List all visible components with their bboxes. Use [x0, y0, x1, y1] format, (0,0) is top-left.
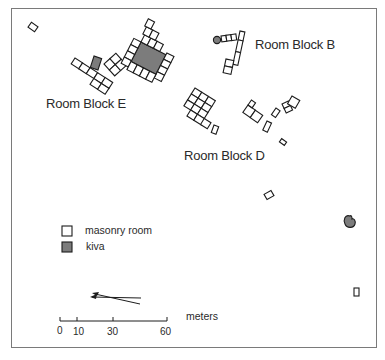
- north-arrow: [90, 292, 141, 304]
- isolated-room-se1: [264, 190, 274, 199]
- scale-tick-60: 60: [160, 326, 171, 337]
- kiva-small: [90, 56, 101, 70]
- scale-tick-10: 10: [73, 326, 84, 337]
- legend-swatch-kiva: [62, 242, 72, 252]
- label-room-block-e: Room Block E: [46, 96, 126, 111]
- legend: [62, 226, 72, 252]
- isolated-kiva-e: [344, 216, 355, 228]
- legend-label-kiva: kiva: [86, 240, 105, 252]
- legend-swatch-masonry-room: [62, 226, 72, 236]
- scale-unit-label: meters: [186, 310, 218, 322]
- scale-tick-0: 0: [57, 325, 63, 336]
- legend-label-masonry-room: masonry room: [85, 224, 152, 236]
- room-block-d: [180, 88, 300, 145]
- label-room-block-d: Room Block D: [184, 148, 265, 163]
- site-map: [0, 0, 385, 360]
- room-block-e: [67, 17, 184, 94]
- kiva-round-b: [213, 36, 220, 43]
- room-block-b: [213, 31, 244, 74]
- label-room-block-b: Room Block B: [255, 37, 335, 52]
- isolated-room-se2: [354, 288, 359, 296]
- isolated-room-nw: [28, 22, 38, 32]
- scale-tick-30: 30: [107, 326, 118, 337]
- scale-bar: [60, 317, 167, 321]
